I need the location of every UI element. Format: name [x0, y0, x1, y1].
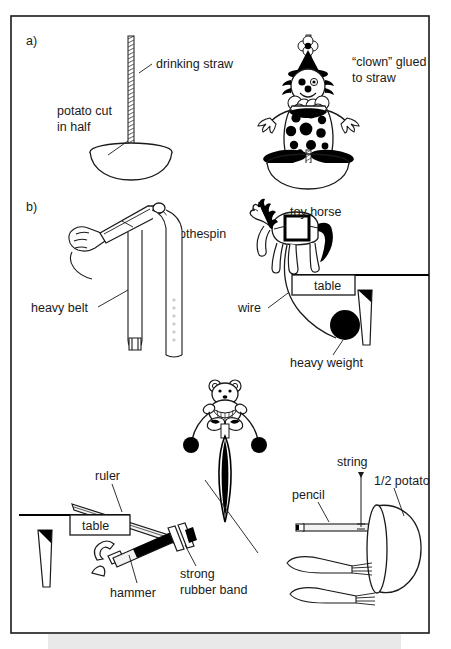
label-rubber-band-line1: strong: [180, 567, 215, 581]
label-table-ruler: table: [82, 519, 109, 533]
label-table-horse: table: [314, 279, 341, 293]
panel-letter-b: b): [26, 200, 37, 214]
figure-illustration: a) drinking straw potato cut in ha: [0, 0, 451, 649]
label-rubber-band-line2: rubber band: [180, 583, 247, 597]
label-half-potato: 1/2 potato: [374, 474, 430, 488]
label-hammer: hammer: [110, 586, 156, 600]
label-ruler: ruler: [95, 469, 120, 483]
label-heavy-weight: heavy weight: [290, 356, 363, 370]
label-drinking-straw: drinking straw: [156, 57, 234, 71]
heavy-weight-ball-figure: [330, 310, 360, 340]
label-wire: wire: [237, 301, 261, 315]
bottom-band: [48, 634, 401, 649]
drinking-straw-figure: [128, 36, 134, 156]
label-pencil: pencil: [292, 488, 325, 502]
label-clown-glued-line1: “clown” glued: [352, 55, 426, 69]
pencil-figure: [296, 524, 377, 531]
label-heavy-belt: heavy belt: [31, 301, 89, 315]
label-toy-horse: toy horse: [290, 205, 341, 219]
label-potato-cut-line1: potato cut: [57, 104, 112, 118]
label-clown-glued-line2: to straw: [352, 71, 397, 85]
figure-container: a) drinking straw potato cut in ha: [0, 0, 451, 649]
label-potato-cut-line2: in half: [57, 120, 91, 134]
label-string: string: [337, 455, 368, 469]
panel-letter-a: a): [26, 34, 37, 48]
